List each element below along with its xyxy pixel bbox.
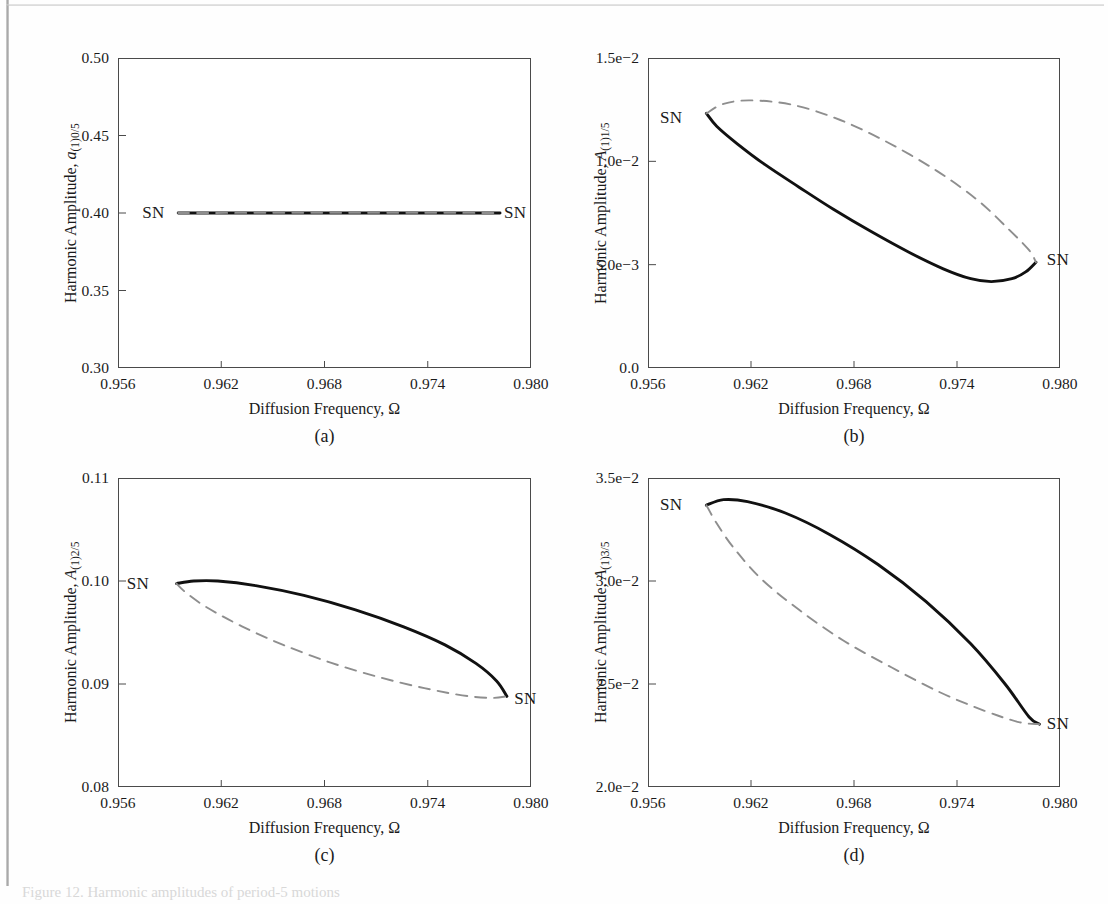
x-tick-label: 0.968 (836, 794, 871, 812)
saddle-node-annotation: SN (660, 495, 682, 515)
x-axis-title-d: Diffusion Frequency, Ω (778, 819, 929, 837)
y-axis-title-d: Harmonic Amplitude, A(1)3/5 (592, 542, 611, 723)
x-tick-label: 0.980 (1042, 794, 1077, 812)
y-axis-title-symbol: A (592, 570, 609, 580)
curve-stable-d (706, 499, 1039, 724)
x-tick-label: 0.956 (630, 794, 665, 812)
y-axis-title-subscript: (1)3/5 (599, 542, 611, 570)
x-tick-label: 0.974 (939, 794, 974, 812)
y-tick-label: 3.5e−2 (596, 469, 639, 487)
saddle-node-annotation: SN (1047, 714, 1069, 734)
curve-unstable-d (706, 505, 1039, 724)
figure-root: 0.300.350.400.450.500.9560.9620.9680.974… (0, 0, 1108, 904)
panel-label-d: (d) (844, 845, 865, 866)
figure-caption-partial: Figure 12. Harmonic amplitudes of period… (22, 884, 1092, 902)
plot-canvas-d (0, 0, 1108, 904)
x-tick-label: 0.962 (733, 794, 768, 812)
y-axis-title-prefix: Harmonic Amplitude, (592, 579, 609, 723)
panel-d: 2.0e−22.5e−23.0e−23.5e−20.9560.9620.9680… (0, 0, 1108, 904)
